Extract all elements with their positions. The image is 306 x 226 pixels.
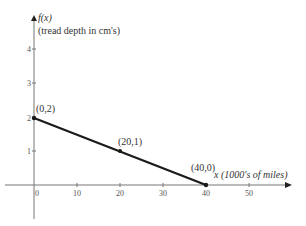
annotation-0-2: (0,2) <box>36 103 55 115</box>
y-tick-labels: 1 2 3 4 <box>27 45 31 156</box>
svg-text:1: 1 <box>27 147 31 156</box>
x-axis-label: x (1000's of miles) <box>213 169 288 181</box>
svg-text:3: 3 <box>27 79 31 88</box>
y-axis-sublabel: (tread depth in cm's) <box>38 25 120 37</box>
chart: 0 10 20 30 40 50 1 2 3 4 (0,2) (20,1) (4… <box>0 0 306 226</box>
svg-text:40: 40 <box>202 189 210 198</box>
point-20-1 <box>118 149 122 153</box>
svg-text:0: 0 <box>35 189 39 198</box>
y-axis-label: f(x) <box>38 12 53 24</box>
point-40-0 <box>204 183 208 187</box>
svg-text:10: 10 <box>73 189 81 198</box>
svg-text:50: 50 <box>245 189 253 198</box>
y-axis-arrow-icon <box>31 15 37 21</box>
annotation-20-1: (20,1) <box>118 136 142 148</box>
annotation-40-0: (40,0) <box>191 162 215 174</box>
svg-text:4: 4 <box>27 45 31 54</box>
x-tick-labels: 0 10 20 30 40 50 <box>35 189 253 198</box>
point-0-2 <box>32 116 36 120</box>
svg-text:20: 20 <box>116 189 124 198</box>
svg-text:2: 2 <box>27 114 31 123</box>
svg-text:30: 30 <box>159 189 167 198</box>
x-axis-arrow-icon <box>285 182 292 188</box>
